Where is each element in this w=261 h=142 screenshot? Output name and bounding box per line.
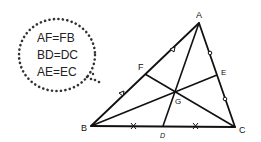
median-be: [91, 75, 217, 126]
triangle-abc: [91, 23, 235, 127]
thought-bubble: AF=FB BD=DC AE=EC: [19, 19, 100, 91]
triangle-tick-icon: [170, 47, 175, 52]
circle-tick-icon: [223, 97, 227, 101]
label-g: G: [175, 97, 181, 106]
bubble-line-af-fb: AF=FB: [37, 31, 75, 45]
label-d: D: [160, 132, 165, 139]
triangle-tick-icon: [119, 91, 124, 96]
label-c: C: [239, 125, 246, 135]
bubble-line-ae-ec: AE=EC: [37, 65, 77, 79]
circle-tick-icon: [208, 51, 212, 55]
label-b: B: [81, 123, 87, 133]
bubble-line-bd-dc: BD=DC: [37, 48, 78, 62]
label-a: A: [196, 10, 202, 20]
side-bc: [91, 126, 235, 127]
label-e: E: [221, 68, 226, 77]
triangle-diagram: AF=FB BD=DC AE=EC A B C D E: [0, 0, 261, 142]
bubble-tail: [86, 73, 101, 83]
median-ad: [163, 23, 199, 126]
median-cf: [145, 74, 235, 127]
label-f: F: [138, 62, 144, 72]
medians: [91, 23, 235, 127]
